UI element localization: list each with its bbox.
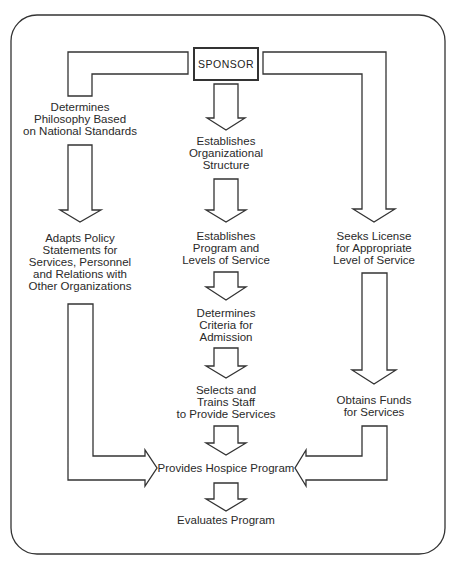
node-text: to Provide Services (166, 408, 286, 420)
node-text: on National Standards (20, 125, 140, 137)
arrow-funds-to-hospice (295, 426, 387, 486)
node-text: Determines (166, 307, 286, 319)
node-text: for Services (314, 406, 434, 418)
arrow-license-to-funds (352, 273, 396, 384)
node-text: for Appropriate (314, 242, 434, 254)
node-text: Obtains Funds (314, 394, 434, 406)
node-text: Program and (166, 242, 286, 254)
node-program-levels: Establishes Program and Levels of Servic… (166, 230, 286, 266)
node-policy: Adapts Policy Statements for Services, P… (20, 232, 140, 292)
node-text: Philosophy Based (20, 113, 140, 125)
arrow-program-to-admission (206, 272, 246, 300)
node-text: Evaluates Program (166, 514, 286, 526)
node-license: Seeks License for Appropriate Level of S… (314, 230, 434, 266)
arrow-sponsor-to-philosophy (68, 52, 188, 96)
arrow-structure-to-program (206, 179, 246, 222)
node-text: Criteria for (166, 319, 286, 331)
node-text: Adapts Policy (20, 232, 140, 244)
node-philosophy: Determines Philosophy Based on National … (20, 101, 140, 137)
sponsor-box: SPONSOR (193, 47, 259, 81)
node-text: and Relations with (20, 268, 140, 280)
node-text: Selects and (166, 384, 286, 396)
arrow-policy-to-hospice (68, 304, 157, 486)
node-text: Determines (20, 101, 140, 113)
node-admission: Determines Criteria for Admission (166, 307, 286, 343)
arrow-sponsor-to-structure (207, 84, 245, 130)
node-org-structure: Establishes Organizational Structure (166, 135, 286, 171)
node-text: Provides Hospice Program (156, 462, 296, 474)
node-text: Organizational (166, 147, 286, 159)
arrow-admission-to-staff (206, 348, 246, 378)
node-hospice: Provides Hospice Program (156, 462, 296, 474)
node-text: Level of Service (314, 254, 434, 266)
node-funds: Obtains Funds for Services (314, 394, 434, 418)
arrow-staff-to-hospice (206, 426, 246, 455)
node-text: Services, Personnel (20, 256, 140, 268)
node-text: Statements for (20, 244, 140, 256)
node-text: Admission (166, 331, 286, 343)
node-text: Structure (166, 159, 286, 171)
node-text: Levels of Service (166, 254, 286, 266)
node-text: Other Organizations (20, 280, 140, 292)
arrow-philosophy-to-policy (60, 145, 101, 222)
node-text: Establishes (166, 230, 286, 242)
node-text: Establishes (166, 135, 286, 147)
node-evaluate: Evaluates Program (166, 514, 286, 526)
node-text: Trains Staff (166, 396, 286, 408)
node-staff: Selects and Trains Staff to Provide Serv… (166, 384, 286, 420)
arrow-hospice-to-evaluate (206, 483, 246, 511)
node-text: Seeks License (314, 230, 434, 242)
